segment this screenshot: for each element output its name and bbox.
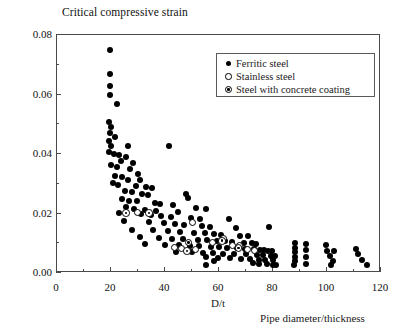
data-point [145, 192, 151, 198]
data-point [237, 233, 243, 239]
y-tick-label: 0.04 [33, 147, 52, 159]
y-minor-tick [56, 242, 59, 243]
data-point [202, 230, 208, 236]
data-point [129, 227, 135, 233]
data-point [169, 236, 175, 242]
dotted-circle-icon [222, 86, 235, 93]
data-point [172, 221, 178, 227]
data-point [175, 209, 181, 215]
data-point [303, 241, 309, 247]
y-tick-label: 0.08 [33, 28, 52, 40]
data-point [121, 218, 127, 224]
legend-label: Stainless steel [236, 70, 295, 83]
data-point [168, 214, 174, 220]
y-minor-tick [56, 123, 59, 124]
data-point [185, 239, 193, 247]
legend-item[interactable]: Ferritic steel [222, 57, 370, 70]
data-point [125, 143, 131, 149]
data-point [264, 261, 270, 267]
open-circle-icon [222, 73, 235, 80]
data-point [211, 258, 217, 264]
data-point [245, 233, 251, 239]
legend-item[interactable]: Stainless steel [222, 70, 370, 83]
x-minor-tick [353, 269, 354, 272]
data-point [134, 209, 141, 216]
data-point [203, 206, 209, 212]
data-point [114, 164, 120, 170]
x-minor-tick [191, 269, 192, 272]
x-tick-label: 0 [53, 281, 59, 293]
chart-title: Critical compressive strain [62, 6, 188, 18]
data-point [211, 231, 217, 237]
legend-label: Steel with concrete coating [236, 83, 350, 96]
y-tick-label: 0.02 [33, 207, 52, 219]
x-tick-label: 20 [105, 281, 116, 293]
data-point [161, 220, 167, 226]
x-minor-tick [137, 269, 138, 272]
data-point [125, 177, 131, 183]
data-point [291, 262, 297, 268]
data-point [166, 143, 172, 149]
x-minor-tick [299, 269, 300, 272]
figure: Critical compressive strain 0.000.020.04… [0, 0, 407, 331]
y-major-tick [56, 34, 61, 35]
data-point [107, 92, 113, 98]
legend-item[interactable]: Steel with concrete coating [222, 83, 370, 96]
y-major-tick [56, 94, 61, 95]
data-point [207, 224, 213, 230]
y-minor-tick [56, 183, 59, 184]
data-point [149, 185, 155, 191]
data-point [126, 198, 132, 204]
data-point [130, 160, 136, 166]
data-point [114, 101, 120, 107]
x-major-tick [164, 267, 165, 272]
x-minor-tick [245, 269, 246, 272]
y-major-tick [56, 272, 61, 273]
filled-circle-icon [222, 61, 235, 67]
x-minor-tick [83, 269, 84, 272]
data-point [122, 188, 128, 194]
data-point [133, 183, 139, 189]
data-point [129, 189, 135, 195]
data-point [137, 234, 143, 240]
data-point [238, 256, 244, 262]
y-tick-label: 0.06 [33, 88, 52, 100]
data-point [331, 248, 337, 254]
y-tick-label: 0.00 [33, 266, 52, 278]
data-point [251, 247, 258, 254]
data-point [199, 223, 205, 229]
x-major-tick [218, 267, 219, 272]
x-tick-label: 40 [159, 281, 170, 293]
data-point [165, 228, 171, 234]
x-major-tick [326, 267, 327, 272]
data-point [192, 246, 199, 253]
data-point [233, 225, 239, 231]
data-point [256, 261, 262, 267]
x-axis-label-full: Pipe diameter/thickness [260, 312, 365, 324]
data-point [183, 247, 191, 255]
data-point [145, 209, 153, 217]
x-tick-label: 120 [372, 281, 389, 293]
y-major-tick [56, 153, 61, 154]
y-minor-tick [56, 64, 59, 65]
data-point [303, 247, 309, 253]
x-tick-label: 80 [267, 281, 278, 293]
x-tick-label: 100 [318, 281, 335, 293]
x-tick-label: 60 [213, 281, 224, 293]
data-point [142, 241, 148, 247]
x-major-tick [56, 267, 57, 272]
x-major-tick [380, 267, 381, 272]
data-point [156, 235, 162, 241]
data-point [162, 242, 168, 248]
data-point [203, 254, 209, 260]
data-point [303, 261, 309, 267]
legend-label: Ferritic steel [236, 57, 289, 70]
data-point [323, 242, 329, 248]
data-point [108, 124, 114, 130]
data-point [226, 216, 232, 222]
data-point [177, 229, 183, 235]
data-point [210, 250, 216, 256]
y-axis: 0.000.020.040.060.08 [0, 0, 52, 331]
data-point [191, 230, 197, 236]
data-point [235, 244, 243, 252]
